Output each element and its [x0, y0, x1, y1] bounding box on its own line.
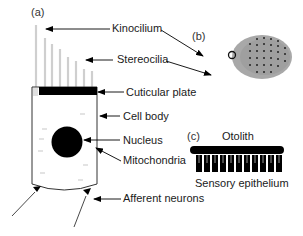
cilia-bundle: [36, 25, 92, 89]
nucleus: [52, 127, 83, 158]
synapse-left: [33, 186, 41, 192]
cuticular-plate: [39, 87, 97, 95]
label-mitochondria: Mitochondria: [123, 155, 186, 166]
panel-label-a: (a): [31, 7, 44, 18]
label-cuticular-plate: Cuticular plate: [126, 87, 196, 98]
hair-cell: [12, 25, 97, 227]
bundle-top-view: [229, 35, 293, 79]
synapse-right: [83, 188, 91, 195]
label-nucleus: Nucleus: [123, 135, 163, 146]
afferent-neuron-right: [74, 196, 86, 227]
panel-label-b: (b): [192, 31, 205, 42]
label-kinocilium: Kinocilium: [112, 23, 162, 34]
label-stereocilia: Stereocilia: [117, 54, 168, 65]
label-otolith: Otolith: [222, 131, 254, 142]
panel-label-c: (c): [187, 131, 200, 142]
otolith-mass: [190, 146, 284, 154]
otolith-organ: [190, 146, 284, 172]
label-cell-body: Cell body: [123, 111, 169, 122]
label-sensory-epithelium: Sensory epithelium: [195, 178, 289, 189]
hair-bundles: [199, 155, 279, 163]
afferent-neuron-left: [12, 192, 35, 216]
label-afferent-neurons: Afferent neurons: [123, 193, 204, 204]
